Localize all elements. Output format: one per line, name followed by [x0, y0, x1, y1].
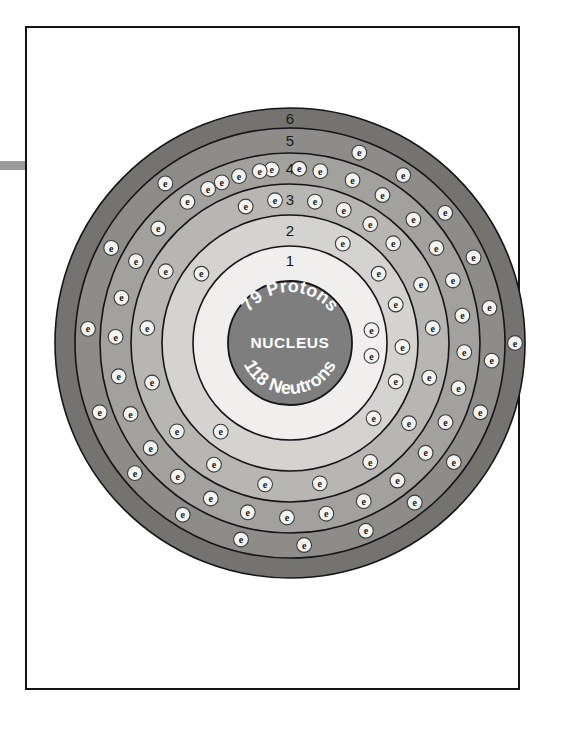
- page-margin-tab: [0, 161, 28, 170]
- figure-page: 79 Protons118 NeutronsNUCLEUS 123456 eee…: [0, 0, 586, 731]
- diagram-frame: [25, 26, 520, 690]
